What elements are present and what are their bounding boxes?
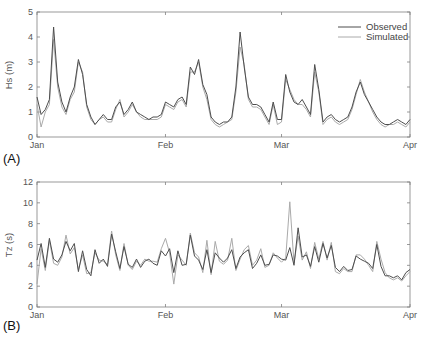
x-tick-label: Jan — [30, 310, 45, 320]
y-tick-label: 5 — [28, 7, 33, 17]
x-tick-label: Apr — [403, 140, 417, 150]
x-tick-label: Jan — [30, 140, 45, 150]
x-tick-label: Feb — [158, 310, 174, 320]
y-tick-label: 4 — [28, 260, 33, 270]
y-tick-label: 2 — [28, 82, 33, 92]
panel-a-tag: (A) — [3, 151, 20, 166]
tz-observed-line — [37, 228, 410, 280]
hs-plot-svg: 012345JanFebMarApr Observed Simulated Hs… — [0, 0, 425, 172]
tz-simulated-line — [37, 202, 410, 284]
y-tick-label: 8 — [28, 219, 33, 229]
simulated-series — [37, 40, 410, 128]
plot-frame — [37, 182, 410, 307]
x-tick-label: Mar — [274, 140, 290, 150]
y-tick-label: 2 — [28, 281, 33, 291]
observed-series — [37, 228, 410, 280]
hs-simulated-line — [37, 40, 410, 128]
panel-a-hs-chart: 012345JanFebMarApr Observed Simulated Hs… — [0, 0, 425, 172]
tz-axes: 024681012JanFebMarApr — [23, 177, 417, 320]
y-tick-label: 12 — [23, 177, 33, 187]
x-tick-label: Mar — [274, 310, 290, 320]
tz-plot-svg: 024681012JanFebMarApr Tz (s) — [0, 170, 425, 344]
x-tick-label: Apr — [403, 310, 417, 320]
simulated-series — [37, 202, 410, 284]
y-tick-label: 6 — [28, 240, 33, 250]
x-tick-label: Feb — [158, 140, 174, 150]
tz-y-axis-label: Tz (s) — [3, 233, 14, 257]
y-tick-label: 1 — [28, 107, 33, 117]
y-tick-label: 10 — [23, 198, 33, 208]
y-tick-label: 3 — [28, 57, 33, 67]
legend-simulated-label: Simulated — [366, 31, 408, 42]
y-tick-label: 4 — [28, 32, 33, 42]
panel-b-tag: (B) — [3, 318, 20, 333]
hs-y-axis-label: Hs (m) — [3, 61, 14, 90]
hs-legend: Observed Simulated — [334, 19, 408, 49]
panel-b-tz-chart: 024681012JanFebMarApr Tz (s) (B) — [0, 170, 425, 344]
